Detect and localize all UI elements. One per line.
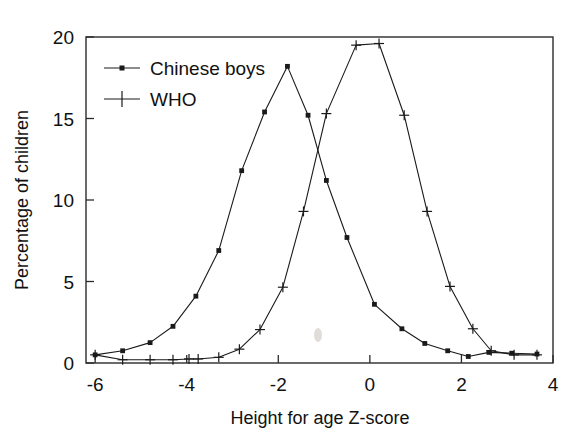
data-point-chinese-boys-11 (345, 235, 350, 240)
data-point-chinese-boys-3 (171, 324, 176, 329)
chart-legend: Chinese boys WHO (104, 58, 265, 110)
x-tick-label--6: -6 (87, 374, 104, 395)
x-tick-label-2: 2 (456, 374, 467, 395)
data-point-chinese-boys-15 (445, 348, 450, 353)
y-tick-label-15: 15 (53, 109, 74, 130)
distribution-line-chart: 05101520 -6-4-2024 Chinese boys WHO Heig… (0, 0, 578, 444)
x-axis-ticks (95, 355, 553, 363)
data-point-who-14 (399, 110, 409, 120)
data-point-chinese-boys-4 (193, 294, 198, 299)
data-point-chinese-boys-6 (239, 168, 244, 173)
data-point-who-9 (278, 282, 288, 292)
y-axis-tick-labels: 05101520 (53, 27, 74, 374)
data-point-who-13 (374, 39, 384, 49)
x-tick-label-4: 4 (548, 374, 559, 395)
x-axis-title: Height for age Z-score (230, 408, 409, 428)
x-axis-tick-labels: -6-4-2024 (87, 374, 559, 395)
data-point-who-6 (214, 352, 224, 362)
data-point-who-20 (532, 350, 542, 360)
data-point-who-11 (321, 109, 331, 119)
data-point-chinese-boys-12 (372, 302, 377, 307)
data-point-chinese-boys-7 (262, 110, 267, 115)
data-point-who-0 (90, 350, 100, 360)
y-tick-label-5: 5 (63, 272, 74, 293)
x-tick-label--2: -2 (270, 374, 287, 395)
data-point-who-15 (422, 206, 432, 216)
data-point-chinese-boys-16 (466, 354, 471, 359)
data-point-who-16 (445, 281, 455, 291)
data-point-chinese-boys-14 (422, 341, 427, 346)
data-point-chinese-boys-10 (324, 178, 329, 183)
x-tick-label--4: -4 (178, 374, 195, 395)
data-point-chinese-boys-9 (306, 113, 311, 118)
y-axis-ticks (86, 37, 94, 363)
data-point-chinese-boys-13 (400, 326, 405, 331)
chart-page: 05101520 -6-4-2024 Chinese boys WHO Heig… (0, 0, 578, 444)
scan-artifact (314, 328, 322, 342)
legend-item-label-who: WHO (150, 89, 196, 110)
series-layer (90, 39, 542, 365)
data-point-chinese-boys-8 (285, 64, 290, 69)
legend-marker-square-icon (120, 66, 125, 71)
y-axis-title: Percentage of children (12, 110, 32, 290)
data-point-chinese-boys-5 (216, 248, 221, 253)
plot-area-border (86, 37, 553, 363)
y-tick-label-0: 0 (63, 353, 74, 374)
data-point-chinese-boys-1 (120, 348, 125, 353)
y-tick-label-10: 10 (53, 190, 74, 211)
series-who (90, 39, 542, 365)
legend-item-label-chinese-boys: Chinese boys (150, 58, 265, 79)
y-tick-label-20: 20 (53, 27, 74, 48)
data-point-chinese-boys-2 (148, 340, 153, 345)
data-point-who-12 (351, 40, 361, 50)
data-point-who-10 (298, 206, 308, 216)
x-tick-label-0: 0 (365, 374, 376, 395)
